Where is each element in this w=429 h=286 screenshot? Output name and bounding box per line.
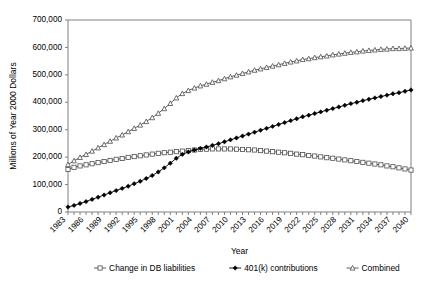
data-point-marker [355,159,359,163]
y-tick-label: 200,000 [32,152,62,161]
data-point-marker [144,119,149,124]
data-point-marker [156,151,160,155]
data-point-marker [66,167,70,171]
data-point-marker [300,115,304,119]
data-point-marker [277,150,281,154]
data-point-marker [150,152,154,156]
data-point-marker [283,151,287,155]
data-point-marker [168,150,172,154]
x-tick-label: 2034 [355,215,375,235]
data-point-marker [295,152,299,156]
data-point-marker [403,167,407,171]
data-point-marker [240,147,244,151]
x-tick-label: 2010 [211,215,231,235]
data-point-marker [96,161,100,165]
data-point-marker [96,145,101,150]
data-point-marker [397,166,401,170]
data-point-marker [150,173,154,177]
data-point-marker [270,124,274,128]
data-point-marker [66,205,70,209]
data-point-marker [228,147,232,151]
x-tick-label: 1983 [48,215,68,235]
data-point-marker [343,158,347,162]
data-point-marker [367,97,371,101]
data-point-marker [72,158,77,163]
data-point-marker [78,164,82,168]
data-point-marker [379,163,383,167]
data-point-marker [144,176,148,180]
legend-item-2[interactable]: 401(k) contributions [229,263,318,273]
y-tick-label: 700,000 [32,15,62,24]
series-2 [66,88,413,210]
y-tick-label: 400,000 [32,97,62,106]
data-point-marker [98,266,102,270]
data-point-marker [186,88,191,93]
x-axis-title: Year [231,246,248,256]
data-point-marker [234,136,238,140]
data-point-marker [367,161,371,165]
data-point-marker [144,153,148,157]
data-point-marker [409,88,413,92]
x-tick-label: 2028 [319,215,339,235]
data-point-marker [102,159,106,163]
data-point-marker [222,147,226,151]
data-point-marker [337,157,341,161]
data-point-marker [138,154,142,158]
data-point-marker [174,150,178,154]
legend-item-3[interactable]: Combined [347,263,401,273]
data-point-marker [72,165,76,169]
data-point-marker [325,108,329,112]
series-line [68,48,411,165]
data-point-marker [319,155,323,159]
data-point-marker [301,153,305,157]
data-point-marker [252,148,256,152]
line-chart: 0100,000200,000300,000400,000500,000600,… [0,0,429,286]
x-tick-label: 2022 [283,215,303,235]
y-tick-label: 100,000 [32,180,62,189]
data-point-marker [331,156,335,160]
x-tick-label: 2019 [265,215,285,235]
data-point-marker [385,93,389,97]
data-point-marker [108,139,113,144]
chart-container: 0100,000200,000300,000400,000500,000600,… [0,0,429,286]
data-point-marker [319,110,323,114]
data-point-marker [84,163,88,167]
x-tick-label: 2004 [175,215,195,235]
legend-label: 401(k) contributions [244,263,318,273]
data-point-marker [379,94,383,98]
x-tick-label: 2031 [337,215,357,235]
data-point-marker [78,155,83,160]
data-point-marker [343,103,347,107]
data-point-marker [138,179,142,183]
data-point-marker [391,92,395,96]
data-point-marker [288,118,292,122]
data-point-marker [307,113,311,117]
legend-label: Combined [362,263,401,273]
data-point-marker [228,138,232,142]
x-tick-label: 2013 [229,215,249,235]
data-point-marker [216,147,220,151]
data-point-marker [240,134,244,138]
series-1 [66,147,413,172]
data-point-marker [114,188,118,192]
data-point-marker [120,156,124,160]
data-point-marker [355,100,359,104]
data-point-marker [108,158,112,162]
data-point-marker [126,184,130,188]
data-point-marker [174,95,179,100]
data-point-marker [180,91,185,96]
data-point-marker [337,105,341,109]
data-point-marker [270,150,274,154]
data-point-marker [397,90,401,94]
data-point-marker [264,149,268,153]
data-point-marker [409,168,413,172]
data-point-marker [282,120,286,124]
data-point-marker [294,117,298,121]
legend-item-1[interactable]: Change in DB liabilities [94,263,195,273]
data-point-marker [276,122,280,126]
x-tick-label: 2016 [247,215,267,235]
data-point-marker [325,156,329,160]
data-point-marker [132,126,137,131]
data-point-marker [349,159,353,163]
data-point-marker [102,193,106,197]
